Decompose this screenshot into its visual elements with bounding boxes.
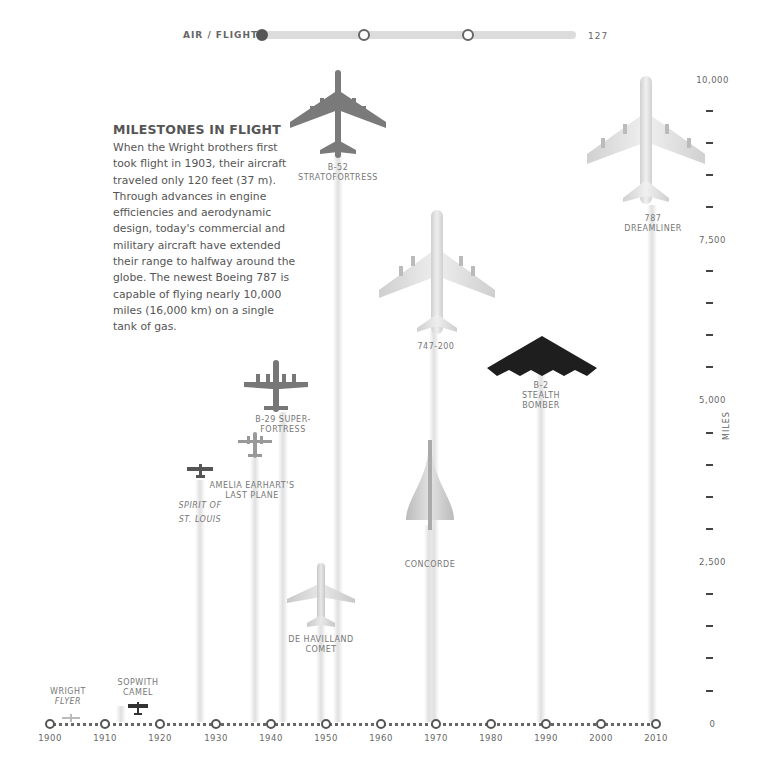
label-sopwith-camel: SOPWITH CAMEL [118, 678, 159, 698]
label-concorde: CONCORDE [405, 560, 456, 570]
y-tick-dash [706, 110, 713, 112]
label-line: B-2 [522, 381, 560, 391]
b29-icon [244, 360, 308, 414]
label-b52: B-52 STRATOFORTRESS [298, 163, 378, 183]
y-tick-dash [706, 142, 713, 144]
label-line: STRATOFORTRESS [298, 173, 378, 183]
trail-concorde [424, 525, 434, 722]
label-line: LAST PLANE [210, 491, 295, 501]
y-tick-dash [706, 366, 713, 368]
y-tick-dash [706, 206, 713, 208]
label-line-italic: ST. LOUIS [179, 515, 221, 524]
x-axis-dot [321, 719, 331, 729]
label-line: B-52 [298, 163, 378, 173]
label-line-italic: SPIRIT OF [178, 501, 221, 510]
page-number: 127 [588, 31, 608, 41]
sopwith-camel-icon [128, 702, 148, 716]
x-tick-label: 1970 [424, 733, 448, 743]
x-tick-label: 2000 [589, 733, 613, 743]
label-line-italic: FLYER [55, 697, 81, 706]
747-icon [379, 210, 495, 334]
label-line: FORTRESS [255, 425, 311, 435]
trail-787 [647, 205, 657, 722]
label-line: 747-200 [418, 342, 455, 352]
y-tick-dash [706, 270, 713, 272]
label-787: 787 DREAMLINER [624, 214, 682, 234]
x-tick-label: 1960 [369, 733, 393, 743]
y-tick-label: 10,000 [695, 75, 730, 85]
x-axis-dot [376, 719, 386, 729]
label-line: CAMEL [118, 688, 159, 698]
y-tick-dash [706, 302, 713, 304]
slider-dot-2[interactable] [358, 29, 370, 41]
label-comet: DE HAVILLAND COMET [288, 635, 353, 655]
concorde-icon [406, 440, 454, 530]
label-line: CONCORDE [405, 560, 456, 570]
label-line: STEALTH [522, 391, 560, 401]
y-tick-label: 5,000 [695, 395, 730, 405]
x-tick-label: 1990 [534, 733, 558, 743]
intro-block: MILESTONES IN FLIGHT When the Wright bro… [113, 122, 298, 336]
label-line: SOPWITH [118, 678, 159, 688]
y-tick-dash [706, 690, 713, 692]
y-tick-dash [706, 593, 713, 595]
label-line: DREAMLINER [624, 224, 682, 234]
y-tick-dash [706, 657, 713, 659]
label-wright-flyer: WRIGHT FLYER [50, 687, 86, 707]
y-tick-label: 7,500 [695, 235, 730, 245]
label-line: AMELIA EARHART'S [210, 481, 295, 491]
trail-b2 [536, 370, 546, 722]
x-axis-dot [541, 719, 551, 729]
x-tick-label: 1900 [38, 733, 62, 743]
x-axis-dot [266, 719, 276, 729]
section-breadcrumb: AIR / FLIGHT [183, 30, 258, 40]
x-tick-label: 1950 [314, 733, 338, 743]
x-axis-dot [100, 719, 110, 729]
x-tick-label: 1940 [259, 733, 283, 743]
intro-body: When the Wright brothers first took flig… [113, 140, 298, 336]
label-b29: B-29 SUPER- FORTRESS [255, 415, 311, 435]
label-line: 787 [624, 214, 682, 224]
intro-title: MILESTONES IN FLIGHT [113, 122, 298, 137]
b2-stealth-icon [487, 336, 597, 376]
label-amelia-earhart: AMELIA EARHART'S LAST PLANE [210, 481, 295, 501]
label-b2: B-2 STEALTH BOMBER [522, 381, 560, 411]
x-tick-label: 1910 [93, 733, 117, 743]
comet-icon [287, 563, 355, 629]
y-tick-dash [706, 496, 713, 498]
y-tick-label: 0 [695, 719, 730, 729]
x-axis-dot [211, 719, 221, 729]
x-tick-label: 1930 [204, 733, 228, 743]
y-tick-dash [706, 464, 713, 466]
page-slider[interactable] [258, 31, 576, 39]
slider-dot-1[interactable] [256, 29, 268, 41]
y-tick-dash [706, 174, 713, 176]
b52-icon [290, 70, 386, 158]
y-axis-title: MILES [722, 411, 731, 440]
x-axis-dot [431, 719, 441, 729]
x-axis-line [48, 723, 656, 726]
label-spirit-of-st-louis: SPIRIT OF ST. LOUIS [178, 501, 221, 525]
spirit-of-st-louis-icon [187, 464, 213, 478]
label-line: WRIGHT [50, 687, 86, 697]
label-line: B-29 SUPER- [255, 415, 311, 425]
label-line: DE HAVILLAND [288, 635, 353, 645]
trail-sopwith [116, 706, 126, 722]
y-tick-dash [706, 432, 713, 434]
x-axis-dot [155, 719, 165, 729]
x-tick-label: 1920 [148, 733, 172, 743]
x-tick-label: 2010 [644, 733, 668, 743]
wright-flyer-icon [62, 714, 80, 722]
label-line: COMET [288, 645, 353, 655]
y-tick-dash [706, 625, 713, 627]
slider-dot-3[interactable] [462, 29, 474, 41]
x-axis-dot [651, 719, 661, 729]
y-tick-dash [706, 528, 713, 530]
787-icon [587, 76, 705, 204]
label-line: BOMBER [522, 401, 560, 411]
y-tick-label: 2,500 [695, 557, 730, 567]
x-axis-dot [45, 719, 55, 729]
electra-icon [238, 432, 272, 458]
x-axis-dot [486, 719, 496, 729]
x-tick-label: 1980 [479, 733, 503, 743]
